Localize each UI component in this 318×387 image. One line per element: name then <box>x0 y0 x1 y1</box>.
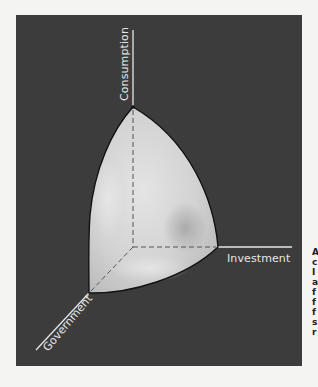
government-axis-label: Government <box>40 292 95 354</box>
investment-axis-label: Investment <box>227 252 291 265</box>
consumption-axis-label: Consumption <box>118 27 131 101</box>
cropped-caption-fragment: A c I a f f f s r <box>312 247 318 337</box>
possibility-surface <box>89 105 218 293</box>
apex-point <box>131 105 135 109</box>
production-possibility-surface-diagram: Consumption Investment Government <box>0 0 318 387</box>
